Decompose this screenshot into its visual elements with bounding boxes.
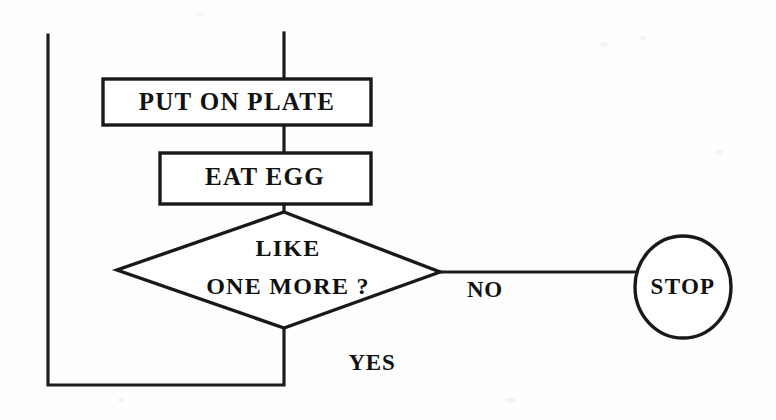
decision-diamond: [117, 212, 440, 328]
flowchart-canvas: PUT ON PLATE EAT EGG LIKE ONE MORE ? STO…: [0, 0, 776, 420]
decision-label-line-2: ONE MORE ?: [206, 273, 370, 299]
node-like-one-more[interactable]: LIKE ONE MORE ?: [117, 212, 440, 328]
eat-egg-label: EAT EGG: [205, 163, 325, 190]
flowchart-svg: PUT ON PLATE EAT EGG LIKE ONE MORE ? STO…: [0, 0, 776, 420]
put-on-plate-label: PUT ON PLATE: [139, 88, 336, 115]
decision-label-line-1: LIKE: [255, 235, 320, 261]
edge-label-yes: YES: [348, 350, 395, 375]
node-eat-egg[interactable]: EAT EGG: [160, 153, 371, 204]
edge-label-no: NO: [467, 277, 503, 302]
node-stop[interactable]: STOP: [635, 236, 731, 338]
stop-label: STOP: [651, 274, 716, 299]
node-put-on-plate[interactable]: PUT ON PLATE: [103, 79, 371, 125]
